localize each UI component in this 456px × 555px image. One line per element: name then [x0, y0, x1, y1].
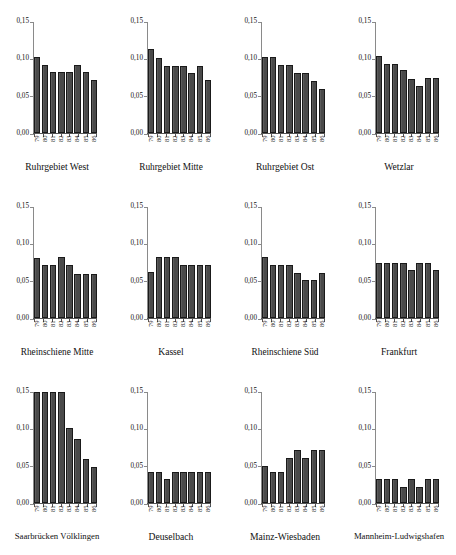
x-axis-tick-label: 85: [311, 505, 317, 531]
x-axis-tick-label: 86: [433, 320, 439, 346]
bar-slot: [58, 392, 64, 503]
y-axis-tick-label: 0,15: [358, 203, 371, 210]
bar: [376, 263, 382, 319]
bar: [392, 64, 398, 133]
bar-slot: [91, 392, 97, 503]
bar: [319, 89, 325, 133]
bar-slot: [50, 392, 56, 503]
bar: [205, 265, 211, 318]
x-axis-tick-label: 82: [400, 135, 406, 161]
x-axis-tick-label: 79: [34, 135, 40, 161]
y-axis-tick-label: 0,05: [358, 278, 371, 285]
chart-title: Ruhrgebiet Ost: [228, 162, 342, 173]
y-axis-tick-label: 0,10: [130, 241, 143, 248]
bar: [425, 263, 431, 319]
bar-slot: [197, 207, 203, 318]
bar: [83, 274, 89, 318]
bar-slot: [205, 22, 211, 133]
bar: [286, 265, 292, 318]
x-axis-tick-label: 79: [376, 505, 382, 531]
x-axis-tick-label: 82: [400, 505, 406, 531]
chart-panel: 0,000,050,100,157980818283848586Mainz-Wi…: [228, 370, 342, 555]
bar-slot: [197, 22, 203, 133]
bar: [74, 439, 80, 503]
x-axis-tick-label: 82: [286, 505, 292, 531]
x-axis-tick-label: 86: [91, 135, 97, 161]
x-axis-tick-label: 85: [197, 320, 203, 346]
chart-panel: 0,000,050,100,157980818283848586Frankfur…: [342, 185, 456, 370]
x-axis-tick-label: 80: [42, 505, 48, 531]
bar: [416, 86, 422, 133]
bar: [408, 79, 414, 133]
bar-slot: [156, 392, 162, 503]
bar: [294, 273, 300, 318]
bar-series: [34, 392, 97, 503]
bar: [416, 263, 422, 319]
y-axis-tick-label: 0,00: [130, 500, 143, 507]
bar: [91, 467, 97, 503]
x-axis-tick-labels: 7980818283848586: [148, 505, 211, 531]
x-axis-tick-labels: 7980818283848586: [34, 135, 97, 161]
bar-slot: [294, 22, 300, 133]
bar-slot: [74, 392, 80, 503]
x-axis-tick-label: 83: [294, 135, 300, 161]
bar: [408, 479, 414, 503]
y-axis-tick-label: 0,10: [16, 56, 29, 63]
y-axis-tick-label: 0,05: [16, 93, 29, 100]
x-axis-tick-label: 85: [83, 320, 89, 346]
bar-slot: [262, 207, 268, 318]
bar-slot: [83, 392, 89, 503]
y-axis-tick-label: 0,00: [244, 130, 257, 137]
y-axis-tick-label: 0,15: [16, 388, 29, 395]
bar-slot: [425, 207, 431, 318]
bar: [408, 270, 414, 318]
bar-slot: [302, 207, 308, 318]
bar: [58, 257, 64, 318]
bar: [164, 479, 170, 503]
chart-title: Rheinschiene Mitte: [0, 347, 114, 357]
bar-series: [376, 207, 439, 318]
bar-slot: [270, 392, 276, 503]
bar-slot: [164, 22, 170, 133]
x-axis-tick-label: 80: [384, 505, 390, 531]
x-axis-tick-label: 79: [34, 505, 40, 531]
x-axis-tick-label: 79: [262, 135, 268, 161]
bar: [164, 66, 170, 133]
bar-slot: [286, 22, 292, 133]
bar-slot: [294, 207, 300, 318]
bar: [172, 257, 178, 318]
x-axis-tick-labels: 7980818283848586: [262, 135, 325, 161]
x-axis-tick-label: 84: [188, 505, 194, 531]
bar-slot: [278, 22, 284, 133]
bar: [34, 258, 40, 318]
bar-series: [262, 22, 325, 133]
chart-panel: 0,000,050,100,157980818283848586Ruhrgebi…: [114, 0, 228, 185]
chart-panel: 0,000,050,100,157980818283848586Rheinsch…: [0, 185, 114, 370]
y-axis-tick-label: 0,05: [130, 278, 143, 285]
bar-slot: [180, 22, 186, 133]
bar: [433, 78, 439, 133]
y-axis-tick-label: 0,05: [130, 93, 143, 100]
bar: [156, 58, 162, 133]
x-axis-tick-label: 79: [262, 320, 268, 346]
bar: [180, 66, 186, 133]
y-axis-tick-label: 0,00: [358, 315, 371, 322]
x-axis-tick-labels: 7980818283848586: [376, 320, 439, 346]
plot-area: 0,000,050,100,15: [33, 207, 97, 319]
x-axis-tick-labels: 7980818283848586: [262, 505, 325, 531]
x-axis-tick-label: 81: [50, 135, 56, 161]
bar-slot: [180, 207, 186, 318]
bar-slot: [156, 207, 162, 318]
bar-slot: [66, 22, 72, 133]
bar: [392, 479, 398, 503]
bar-slot: [319, 22, 325, 133]
y-axis-tick-label: 0,00: [358, 130, 371, 137]
x-axis-tick-labels: 7980818283848586: [148, 135, 211, 161]
x-axis-tick-label: 80: [156, 135, 162, 161]
bar: [188, 472, 194, 503]
plot-area: 0,000,050,100,15: [147, 22, 211, 134]
bar-slot: [286, 392, 292, 503]
bar: [148, 272, 154, 318]
x-axis-tick-label: 79: [148, 135, 154, 161]
bar: [400, 487, 406, 503]
